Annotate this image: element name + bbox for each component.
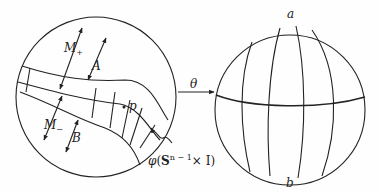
right-sphere-outline — [215, 35, 365, 185]
label-band-phi: φ(Sn − 1× I) — [148, 154, 215, 167]
band-lower-edge — [20, 92, 140, 165]
label-south-pole-b: b — [286, 177, 294, 189]
label-p: p — [129, 100, 137, 112]
figure-canvas: M+ A M− B p φ(Sn − 1× I) θ a b — [0, 0, 379, 192]
label-a: A — [92, 60, 101, 72]
label-m-plus: M+ — [64, 42, 83, 57]
label-theta: θ — [190, 78, 197, 90]
label-b: B — [72, 132, 81, 144]
point-p-dot — [123, 106, 126, 109]
band-middle-edge — [18, 82, 160, 140]
left-sphere-outline — [16, 17, 176, 177]
label-m-minus: M− — [44, 119, 63, 134]
equator — [216, 95, 365, 106]
label-north-pole-a: a — [287, 8, 294, 20]
